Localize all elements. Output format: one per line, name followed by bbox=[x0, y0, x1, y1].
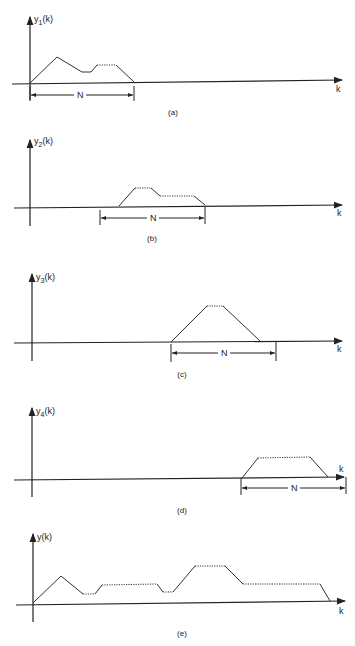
x-axis-label: k bbox=[337, 208, 342, 218]
signal-y2 bbox=[119, 188, 135, 206]
x-axis-label: k bbox=[339, 606, 344, 616]
bracket-label: N bbox=[150, 213, 157, 223]
panel-b: y2(k) k N (b) bbox=[14, 136, 342, 243]
signal-y4 bbox=[242, 458, 258, 478]
signal-y4-dotted bbox=[258, 457, 310, 458]
panel-a: y1(k) k N (a) bbox=[12, 14, 342, 117]
signal-y2-tail bbox=[194, 196, 205, 205]
signal-y1 bbox=[30, 57, 97, 83]
x-axis bbox=[16, 601, 345, 605]
x-axis-label: k bbox=[336, 84, 341, 94]
caption: (a) bbox=[168, 108, 178, 117]
signal-y3-tail bbox=[223, 306, 260, 341]
x-axis-label: k bbox=[339, 464, 344, 474]
x-axis bbox=[12, 80, 342, 84]
x-axis bbox=[14, 477, 344, 480]
signal-y-sum bbox=[33, 576, 83, 603]
signal-y-sum-seg-2 bbox=[95, 585, 102, 594]
signal-y-sum-tail bbox=[320, 584, 330, 601]
signal-y-sum-seg-5 bbox=[225, 566, 243, 584]
y-axis-label: y3(k) bbox=[36, 272, 55, 284]
bracket-label: N bbox=[77, 90, 84, 100]
x-axis bbox=[14, 341, 342, 343]
caption: (e) bbox=[177, 629, 187, 638]
caption: (d) bbox=[177, 506, 187, 515]
panel-c: y3(k) k N (c) bbox=[14, 272, 342, 379]
signal-y3 bbox=[171, 306, 207, 342]
signal-y2-mid bbox=[151, 188, 160, 196]
x-axis-label: k bbox=[337, 344, 342, 354]
panel-d: y4(k) k N (d) bbox=[14, 406, 346, 515]
bracket-label: N bbox=[291, 483, 298, 493]
y-axis-label: y2(k) bbox=[34, 136, 53, 148]
signal-y-sum-dot-2 bbox=[102, 584, 157, 585]
signal-y-sum-seg-4 bbox=[173, 566, 195, 592]
caption: (c) bbox=[177, 370, 187, 379]
y-axis-label: y(k) bbox=[37, 532, 52, 542]
signal-y4-tail bbox=[310, 457, 328, 477]
bracket-label: N bbox=[221, 348, 228, 358]
signal-y1-tail bbox=[116, 65, 134, 82]
panel-e: y(k) k (e) bbox=[16, 532, 345, 638]
figure-canvas: y1(k) k N (a) y2(k) k N (b) y3(k) k bbox=[0, 0, 355, 646]
signal-y-sum-seg-3 bbox=[157, 584, 163, 592]
y-axis-label: y1(k) bbox=[34, 14, 53, 26]
x-axis bbox=[14, 205, 342, 208]
y-axis-label: y4(k) bbox=[36, 406, 55, 418]
caption: (b) bbox=[147, 234, 157, 243]
